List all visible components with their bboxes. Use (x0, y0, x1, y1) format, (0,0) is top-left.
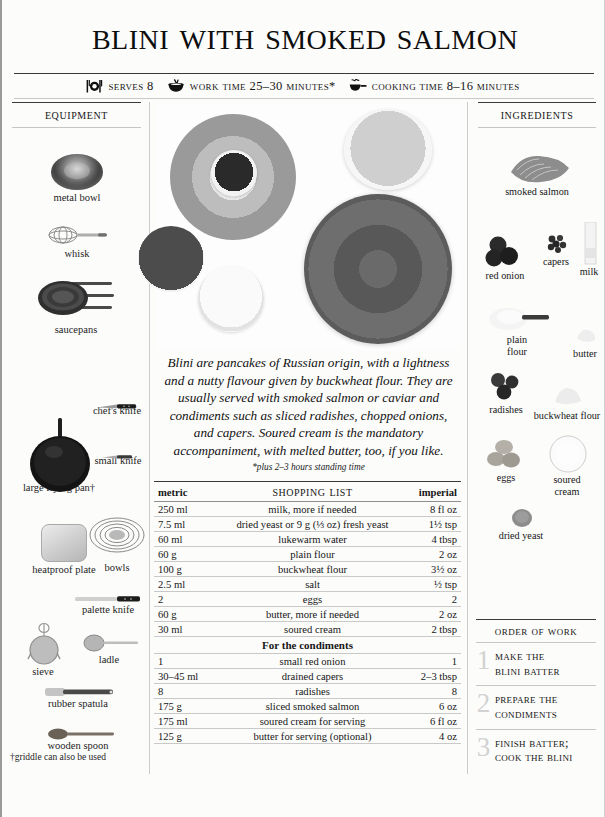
step-text: Make the Blini Batter (495, 649, 560, 678)
meta-serves-label: Serves 8 (108, 79, 153, 94)
equipment-footnote: †griddle can also be used (10, 752, 106, 762)
blini-plate (304, 194, 452, 344)
ingredients-list: smoked salmon red onion (468, 128, 604, 583)
heatproof-plate-icon (41, 524, 87, 562)
ladle-icon (83, 634, 135, 652)
ingredient-label: plain flour (480, 334, 554, 357)
chopped-onion-bowl (138, 226, 204, 292)
step-text: Finish Batter; Cook the Blini (495, 736, 573, 765)
recipe-intro: Blini are pancakes of Russian origin, wi… (150, 350, 467, 459)
order-step: 2 Prepare the Condiments (476, 686, 596, 729)
smoked-salmon-icon (507, 150, 567, 184)
equipment-label: wooden spoon (30, 740, 126, 752)
ingredient-label: eggs (476, 472, 536, 483)
equipment-label: metal bowl (44, 192, 110, 204)
table-row: 250 mlmilk, more if needed8 fl oz (154, 502, 461, 517)
radish-bowl (344, 110, 432, 190)
equipment-item-sieve: sieve (12, 622, 74, 678)
equipment-label: sieve (12, 666, 74, 678)
col-header-imperial: imperial (403, 482, 461, 502)
soured-cream-bowl (198, 266, 264, 332)
col-header-metric: metric (154, 482, 222, 502)
order-of-work-heading: Order of Work (476, 619, 596, 643)
sieve-icon (26, 622, 60, 664)
soured-cream-icon (548, 434, 586, 472)
red-onion-icon (484, 236, 526, 268)
ingredients-heading: Ingredients (478, 102, 596, 128)
table-row: 2eggs2 (154, 592, 461, 607)
ingredient-soured-cream: soured cream (538, 434, 596, 497)
order-step: 1 Make the Blini Batter (476, 643, 596, 686)
ingredient-milk: milk (574, 222, 604, 277)
equipment-item-large-frying-pan: large frying pan† (8, 418, 110, 494)
table-row: 8radishes8 (154, 684, 461, 699)
recipe-page: Blini with Smoked Salmon Serves 8 (0, 0, 605, 817)
equipment-label: ladle (74, 654, 144, 666)
shopping-list-title: Shopping List (222, 482, 403, 502)
table-row: 1small red onion1 (154, 654, 461, 669)
hero-photo (156, 104, 461, 350)
meta-cooking-time: Cooking Time 8–16 minutes (349, 79, 520, 94)
saucepans-icon (37, 274, 115, 322)
equipment-item-saucepans: saucepans (24, 274, 128, 336)
table-row: 60 gbutter, more if needed2 oz (154, 607, 461, 622)
table-row: 2.5 mlsalt½ tsp (154, 577, 461, 592)
table-row: 175 gsliced smoked salmon6 oz (154, 699, 461, 714)
ingredient-smoked-salmon: smoked salmon (490, 150, 584, 197)
step-number: 1 (476, 649, 491, 671)
equipment-item-rubber-spatula: rubber spatula (30, 684, 126, 710)
table-row: 175 mlsoured cream for serving6 fl oz (154, 714, 461, 729)
milk-icon (581, 222, 597, 264)
buckwheat-flour-icon (550, 382, 584, 408)
table-row: 60 gplain flour2 oz (154, 547, 461, 562)
ingredients-panel: Ingredients smoked salmon (467, 102, 604, 774)
chefs-knife-icon (97, 396, 137, 403)
step-number: 2 (476, 692, 491, 714)
ingredient-eggs: eggs (476, 438, 536, 483)
equipment-label: palette knife (68, 604, 148, 616)
ingredient-label: soured cream (538, 474, 596, 497)
title-block: Blini with Smoked Salmon (2, 0, 604, 57)
shopping-list-table: metric Shopping List imperial 250 mlmilk… (154, 481, 461, 744)
ingredient-buckwheat-flour: buckwheat flour (528, 382, 605, 421)
equipment-label: whisk (38, 248, 116, 260)
page-body: Equipment metal bowl (2, 102, 604, 774)
radishes-icon (486, 372, 526, 402)
equipment-item-metal-bowl: metal bowl (44, 154, 110, 204)
meta-work-time-label: Work Time 25–30 minutes* (190, 79, 336, 94)
ingredient-red-onion: red onion (472, 236, 538, 281)
ingredient-plain-flour: plain flour (480, 304, 554, 357)
capers-icon (543, 232, 569, 254)
ingredient-butter: butter (562, 322, 605, 359)
caviar-bowl (211, 150, 257, 196)
steaming-pan-icon (349, 79, 367, 93)
table-row: 30–45 mldrained capers2–3 tbsp (154, 669, 461, 684)
table-row: 60 mllukewarm water4 tbsp (154, 532, 461, 547)
recipe-intro-note: *plus 2–3 hours standing time (150, 459, 467, 472)
plain-flour-icon (488, 304, 546, 332)
wooden-spoon-icon (47, 726, 109, 738)
meta-serves: Serves 8 (86, 79, 153, 94)
equipment-item-ladle: ladle (74, 634, 144, 666)
table-row: 100 gbuckwheat flour3½ oz (154, 562, 461, 577)
meta-cooking-time-label: Cooking Time 8–16 minutes (372, 79, 520, 94)
palette-knife-icon (75, 590, 141, 602)
equipment-item-wooden-spoon: wooden spoon (30, 726, 126, 752)
ingredient-label: dried yeast (486, 530, 556, 541)
order-of-work: Order of Work 1 Make the Blini Batter 2 … (468, 619, 604, 772)
order-step: 3 Finish Batter; Cook the Blini (476, 730, 596, 772)
page-title: Blini with Smoked Salmon (24, 14, 586, 57)
butter-icon (572, 322, 598, 346)
table-header-row: metric Shopping List imperial (154, 482, 461, 502)
equipment-item-heatproof-plate: heatproof plate (16, 524, 112, 576)
equipment-label: rubber spatula (30, 698, 126, 710)
equipment-item-palette-knife: palette knife (68, 590, 148, 616)
table-subheader-condiments: For the condiments (154, 637, 461, 654)
table-row: 30 mlsoured cream2 tbsp (154, 622, 461, 637)
place-setting-icon (86, 80, 103, 93)
step-text: Prepare the Condiments (495, 692, 558, 721)
dried-yeast-icon (509, 506, 533, 528)
metal-bowl-icon (51, 154, 103, 190)
center-column: Blini are pancakes of Russian origin, wi… (150, 102, 467, 774)
meta-work-time: Work Time 25–30 minutes* (167, 79, 336, 94)
